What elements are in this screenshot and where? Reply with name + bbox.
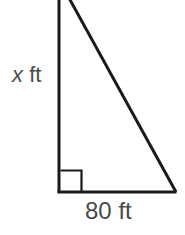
base-value: 80 [85,197,112,224]
triangle-figure: x ft 80 ft [0,0,185,235]
vertical-leg-label: x ft [12,64,41,86]
vertical-leg-variable: x [12,62,23,87]
base-unit: ft [118,197,131,224]
base-label: 80 ft [85,199,132,223]
vertical-leg-unit: ft [29,62,41,87]
